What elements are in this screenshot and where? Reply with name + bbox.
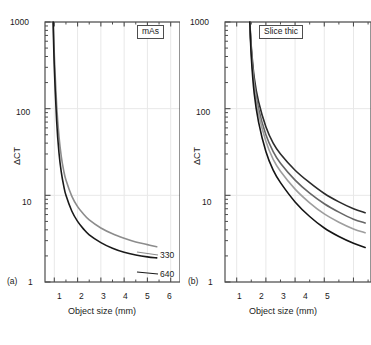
y-tick-label-100: 100 xyxy=(196,108,210,117)
legend-box-slice-thickness: Slice thic xyxy=(259,25,303,39)
series-label-640: 640 xyxy=(160,270,174,279)
panel-a: 1000 100 10 1 ΔCT 1 2 3 4 5 6 Object siz… xyxy=(0,0,180,345)
y-tick-label-10: 10 xyxy=(202,198,211,207)
series-label-330: 330 xyxy=(160,251,174,260)
legend-label-slice-thickness: Slice thic xyxy=(264,26,298,36)
y-tick-label-1: 1 xyxy=(28,278,33,287)
y-tick-label-100: 100 xyxy=(16,108,30,117)
x-tick-label-4: 4 xyxy=(123,292,128,301)
y-tick-label-1: 1 xyxy=(208,278,213,287)
x-tick-label-2: 2 xyxy=(259,292,264,301)
y-tick-label-10: 10 xyxy=(22,198,31,207)
legend-label-mas: mAs xyxy=(142,26,159,36)
panel-a-plot xyxy=(0,0,180,345)
x-tick-label-5: 5 xyxy=(325,292,330,301)
x-tick-label-4: 4 xyxy=(303,292,308,301)
panel-tag-a: (a) xyxy=(7,277,17,286)
x-tick-label-1: 1 xyxy=(57,292,62,301)
y-tick-label-1000: 1000 xyxy=(190,18,209,27)
panel-tag-b: (b) xyxy=(188,277,198,286)
x-tick-label-6: 6 xyxy=(167,292,172,301)
y-axis-title: ΔCT xyxy=(12,147,22,165)
y-axis-title: ΔCT xyxy=(192,147,202,165)
x-axis-title: Object size (mm) xyxy=(68,307,136,316)
x-tick-label-3: 3 xyxy=(281,292,286,301)
x-tick-label-2: 2 xyxy=(79,292,84,301)
x-tick-label-5: 5 xyxy=(145,292,150,301)
x-axis-title: Object size (mm) xyxy=(249,307,317,316)
x-tick-label-3: 3 xyxy=(101,292,106,301)
panel-b: 1000 100 10 1 ΔCT 1 2 3 4 5 Object size … xyxy=(196,0,371,345)
x-tick-label-1: 1 xyxy=(237,292,242,301)
y-tick-label-1000: 1000 xyxy=(10,18,29,27)
legend-box-mas: mAs xyxy=(137,25,164,39)
